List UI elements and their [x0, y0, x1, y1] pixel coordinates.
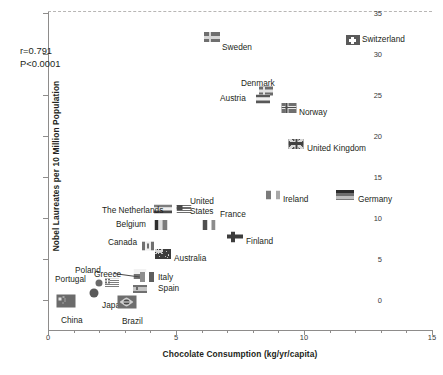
label-portugal: Portugal — [55, 275, 86, 285]
marker-portugal[interactable] — [96, 280, 103, 287]
label-australia: Australia — [174, 254, 206, 264]
label-ireland: Ireland — [283, 195, 308, 205]
y-tick-label-20: 20 — [342, 133, 382, 141]
marker-france[interactable] — [203, 220, 216, 230]
stat-p: P<0.0001 — [20, 57, 60, 70]
y-tick-15 — [43, 177, 48, 178]
x-tick-6 — [202, 330, 203, 333]
y-tick-25 — [43, 95, 48, 96]
y-tick-5 — [43, 259, 48, 260]
marker-finland[interactable] — [227, 231, 243, 242]
x-tick-9 — [278, 330, 279, 333]
x-tick-13 — [381, 330, 382, 333]
label-italy: Italy — [158, 273, 173, 283]
x-tick-label-0: 0 — [36, 334, 60, 342]
x-tick-1 — [74, 330, 75, 333]
x-tick-label-15: 15 — [420, 334, 443, 342]
x-tick-8 — [253, 330, 254, 333]
y-tick-10 — [43, 218, 48, 219]
label-spain: Spain — [158, 284, 179, 294]
marker-china[interactable] — [56, 295, 75, 308]
label-france: France — [220, 210, 246, 220]
x-tick-14 — [406, 330, 407, 333]
x-tick-11 — [330, 330, 331, 333]
y-tick-label-15: 15 — [342, 174, 382, 182]
label-norway: Norway — [299, 108, 327, 118]
y-tick-0 — [43, 300, 48, 301]
x-tick-label-10: 10 — [292, 334, 316, 342]
marker-brazil[interactable] — [117, 296, 136, 309]
x-tick-12 — [355, 330, 356, 333]
y-tick-label-0: 0 — [342, 297, 382, 305]
plot-area: 0 5 10 15 20 25 30 35 0 5 10 15 Nobel La… — [48, 11, 432, 330]
label-belgium: Belgium — [116, 220, 146, 230]
marker-canada[interactable] — [142, 242, 154, 251]
y-tick-20 — [43, 136, 48, 137]
label-finland: Finland — [246, 237, 273, 247]
marker-italy[interactable] — [140, 272, 154, 282]
label-netherlands: The Netherlands — [102, 206, 163, 216]
y-tick-label-5: 5 — [342, 256, 382, 264]
chocolate-nobel-scatter-figure: 0 5 10 15 20 25 30 35 0 5 10 15 Nobel La… — [0, 0, 443, 375]
correlation-stats: r=0.791 P<0.0001 — [20, 44, 60, 70]
label-brazil: Brazil — [122, 317, 143, 327]
marker-united-kingdom[interactable] — [289, 139, 304, 149]
label-switzerland: Switzerland — [362, 35, 405, 45]
x-axis-line — [48, 330, 432, 331]
y-tick-label-30: 30 — [342, 51, 382, 59]
label-austria: Austria — [220, 94, 246, 104]
label-united-kingdom: United Kingdom — [307, 144, 366, 154]
marker-austria[interactable] — [256, 95, 270, 104]
label-united-states-line1: United — [190, 196, 214, 206]
y-tick-35 — [43, 13, 48, 14]
label-china: China — [61, 316, 83, 326]
x-tick-2 — [99, 330, 100, 333]
marker-belgium[interactable] — [154, 220, 167, 230]
marker-germany[interactable] — [336, 190, 354, 200]
label-greece: Greece — [94, 270, 121, 280]
label-denmark: Denmark — [241, 79, 275, 89]
x-tick-7 — [227, 330, 228, 333]
marker-switzerland[interactable] — [346, 35, 360, 45]
x-axis-title: Chocolate Consumption (kg/yr/capita) — [48, 349, 432, 359]
marker-ireland[interactable] — [266, 190, 280, 199]
y-tick-label-35: 35 — [342, 10, 382, 18]
stat-r: r=0.791 — [20, 44, 60, 57]
marker-sweden[interactable] — [204, 32, 220, 42]
label-united-states-line2: States — [190, 206, 214, 216]
label-sweden: Sweden — [222, 43, 252, 53]
x-tick-4 — [150, 330, 151, 333]
label-germany: Germany — [358, 195, 392, 205]
y-tick-label-25: 25 — [342, 92, 382, 100]
marker-united-states[interactable] — [176, 205, 191, 215]
y-tick-label-10: 10 — [342, 215, 382, 223]
marker-japan[interactable] — [90, 289, 99, 298]
x-tick-3 — [125, 330, 126, 333]
marker-spain[interactable] — [133, 285, 147, 293]
marker-norway[interactable] — [281, 103, 296, 113]
label-canada: Canada — [108, 238, 137, 248]
marker-australia[interactable] — [155, 249, 171, 259]
x-tick-label-5: 5 — [164, 334, 188, 342]
